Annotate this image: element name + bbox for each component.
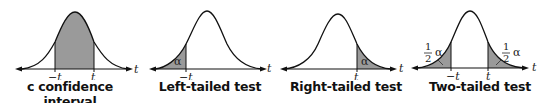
- confidence-interval-curve: −t t t: [0, 0, 140, 80]
- axis-t-label: t: [399, 62, 404, 75]
- right-tailed-curve: α t t: [276, 0, 416, 80]
- caption-two-tailed: Two-tailed test: [410, 79, 550, 94]
- caption-confidence-interval: c confidence interval: [0, 79, 140, 103]
- left-tailed-curve: α −t t: [140, 0, 280, 80]
- two-tailed-curve: 1 2 α 1 2 α −t t t: [410, 0, 550, 80]
- alpha-label: α: [174, 55, 182, 68]
- svg-text:2: 2: [425, 53, 431, 64]
- axis-t-label: t: [134, 63, 139, 76]
- panel-left-tailed: α −t t Left-tailed test: [140, 0, 280, 103]
- svg-text:2: 2: [503, 53, 509, 64]
- axis-t-label: t: [532, 61, 537, 74]
- panel-right-tailed: α t t Right-tailed test: [276, 0, 416, 103]
- svg-text:1: 1: [503, 41, 509, 52]
- panel-confidence-interval: −t t t c confidence interval: [0, 0, 140, 103]
- caption-right-tailed: Right-tailed test: [276, 79, 416, 94]
- alpha-label: α: [361, 55, 369, 68]
- svg-text:α: α: [435, 46, 443, 59]
- caption-left-tailed: Left-tailed test: [140, 79, 280, 94]
- axis-t-label: t: [267, 62, 272, 75]
- panel-two-tailed: 1 2 α 1 2 α −t t t Two-tailed test: [410, 0, 550, 103]
- svg-text:1: 1: [425, 41, 431, 52]
- half-alpha-right: 1 2 α: [496, 41, 521, 65]
- svg-text:α: α: [513, 46, 521, 59]
